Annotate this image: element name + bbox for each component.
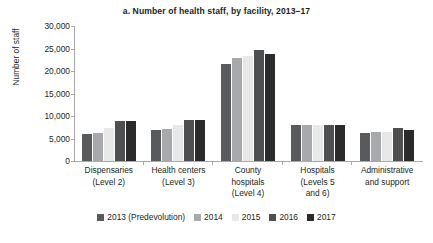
bar [393,128,403,161]
category-label-line: Administrative [353,165,421,177]
x-axis-category-label: Dispensaries(Level 2) [74,165,144,200]
chart-legend: 2013 (Predevolution)2014201520162017 [0,212,433,222]
bar [184,120,194,161]
legend-swatch-icon [269,214,276,221]
bar [291,125,301,161]
bar [302,125,312,161]
category-label-line: (Level 2) [75,177,143,189]
category-label-line: and 6) [284,188,352,200]
bar [173,125,183,161]
bar-group [283,26,353,161]
bar [404,130,414,161]
y-axis-tick-label: 30,000 [44,21,70,31]
legend-label: 2014 [204,212,223,222]
chart-figure: a. Number of health staff, by facility, … [0,0,433,243]
x-axis-category-label: Administrativeand support [352,165,422,200]
legend-item: 2016 [269,212,298,222]
y-axis-tick-label: 0 [65,156,70,166]
legend-swatch-icon [307,214,314,221]
bar [151,130,161,161]
legend-item: 2014 [194,212,223,222]
plot-area: 05,00010,00015,00020,00025,00030,000 [74,26,422,161]
bar [254,50,264,161]
x-axis-category-labels: Dispensaries(Level 2)Health centers(Leve… [74,165,422,200]
bar [93,133,103,161]
bar [195,120,205,161]
y-axis-tick-mark [71,161,74,162]
bar [324,125,334,161]
y-axis-tick-label: 5,000 [49,134,70,144]
category-label-line: hospitals [214,177,282,189]
category-label-line: Hospitals [284,165,352,177]
legend-item: 2013 (Predevolution) [97,212,185,222]
bar [243,56,253,161]
legend-swatch-icon [194,214,201,221]
bar [335,125,345,161]
category-label-line: Health centers [145,165,213,177]
y-axis-title: Number of staff [11,0,21,117]
category-label-line: County [214,165,282,177]
legend-label: 2013 (Predevolution) [107,212,185,222]
bar [313,125,323,161]
bar [82,134,92,161]
bar [265,54,275,161]
x-axis-category-label: Countyhospitals(Level 4) [213,165,283,200]
legend-label: 2017 [317,212,336,222]
legend-item: 2017 [307,212,336,222]
y-axis-tick-label: 20,000 [44,66,70,76]
bar [115,121,125,161]
category-label-line: (Levels 5 [284,177,352,189]
bars-layer [74,26,422,161]
bar-group [74,26,144,161]
category-label-line: (Level 4) [214,188,282,200]
x-axis-category-label: Hospitals(Levels 5and 6) [283,165,353,200]
bar [371,132,381,161]
bar [232,58,242,161]
category-label-line: Dispensaries [75,165,143,177]
legend-swatch-icon [97,214,104,221]
bar [126,121,136,161]
bar [104,128,114,161]
bar [360,133,370,161]
bar-group [144,26,214,161]
bar [382,132,392,161]
x-axis-line [74,161,423,162]
legend-label: 2016 [279,212,298,222]
category-label-line: (Level 3) [145,177,213,189]
x-axis-category-label: Health centers(Level 3) [144,165,214,200]
legend-swatch-icon [232,214,239,221]
category-label-line: and support [353,177,421,189]
legend-label: 2015 [242,212,261,222]
legend-item: 2015 [232,212,261,222]
y-axis-tick-label: 10,000 [44,111,70,121]
chart-title: a. Number of health staff, by facility, … [0,6,433,16]
bar-group [352,26,422,161]
y-axis-tick-label: 25,000 [44,44,70,54]
bar [221,64,231,161]
y-axis-tick-label: 15,000 [44,89,70,99]
bar [162,129,172,161]
bar-group [213,26,283,161]
